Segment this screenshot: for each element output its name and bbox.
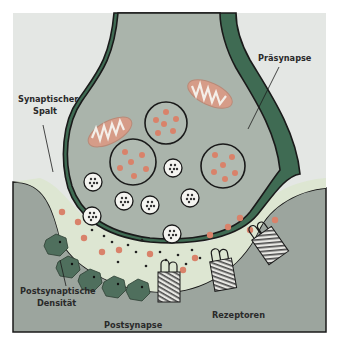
label-synaptic-cleft-1: Synaptischer: [18, 94, 79, 104]
synapse-illustration: Präsynapse Synaptischer Spalt Postsynapt…: [0, 0, 338, 344]
synapse-diagram: Präsynapse Synaptischer Spalt Postsynapt…: [0, 0, 338, 344]
label-receptors: Rezeptoren: [212, 310, 265, 320]
label-psd-2: Densität: [37, 298, 76, 308]
large-vesicle: [145, 102, 187, 144]
label-presynapse: Präsynapse: [258, 53, 312, 63]
large-vesicle: [201, 144, 245, 188]
receptor: [158, 260, 180, 302]
large-vesicle: [110, 139, 156, 185]
label-postsynapse: Postsynapse: [104, 320, 163, 330]
label-psd-1: Postsynaptische: [20, 286, 96, 296]
label-synaptic-cleft-2: Spalt: [33, 106, 57, 116]
